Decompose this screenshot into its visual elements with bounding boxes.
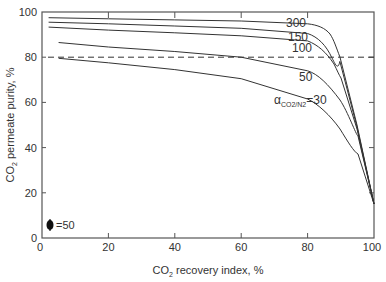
chart: 0 20 40 60 80 100 0 20 40 60 80 100 CO2 … [0, 0, 386, 282]
curve-50 [59, 43, 374, 205]
curves [49, 18, 374, 204]
y-tick-60: 60 [25, 96, 37, 108]
y-tick-100: 100 [19, 6, 37, 18]
y-tick-0: 0 [31, 232, 37, 244]
x-tick-60: 60 [235, 241, 247, 253]
y-tick-80: 80 [25, 51, 37, 63]
curve-30 [59, 58, 374, 204]
x-tick-80: 80 [301, 241, 313, 253]
x-tick-20: 20 [102, 241, 114, 253]
x-axis-title: CO2 recovery index, % [153, 264, 264, 278]
curve-100 [49, 27, 374, 204]
label-50: 50 [299, 70, 313, 84]
legend: =50 [47, 219, 75, 231]
curve-150 [49, 22, 374, 204]
y-tick-20: 20 [25, 187, 37, 199]
y-axis-title: CO2 permeate purity, % [4, 67, 18, 182]
legend-text: =50 [56, 219, 75, 231]
x-tick-0: 0 [37, 241, 43, 253]
x-tick-40: 40 [169, 241, 181, 253]
x-tick-100: 100 [363, 241, 381, 253]
label-300: 300 [286, 16, 306, 30]
y-tick-40: 40 [25, 142, 37, 154]
label-30: αCO2/N2=30 [274, 93, 327, 108]
label-100: 100 [292, 41, 312, 55]
y-tick-labels: 0 20 40 60 80 100 [19, 6, 37, 244]
x-tick-labels: 0 20 40 60 80 100 [37, 241, 381, 253]
